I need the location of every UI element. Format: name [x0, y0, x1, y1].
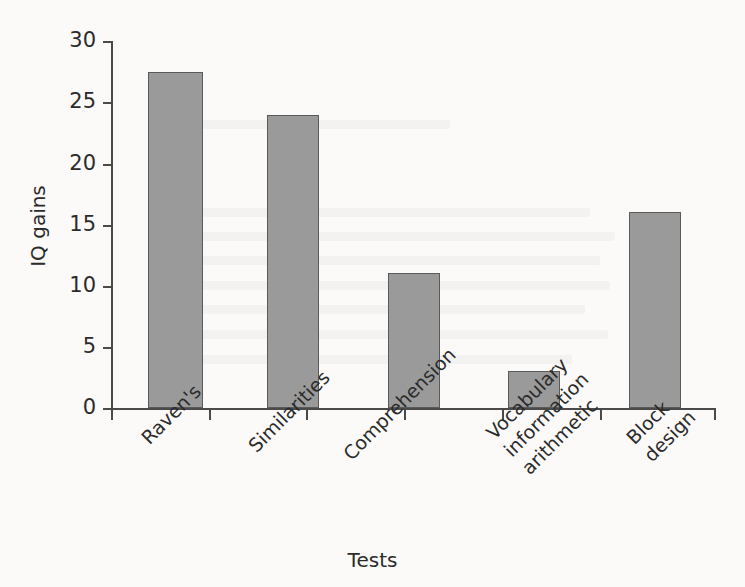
y-axis-title: IQ gains — [26, 166, 50, 286]
y-tick-label: 5 — [52, 336, 96, 357]
scan-artifact — [172, 355, 572, 364]
y-tick-label: 10 — [52, 275, 96, 296]
bar-ravens — [148, 72, 203, 408]
y-tick-label: 20 — [52, 153, 96, 174]
scan-artifact — [170, 208, 590, 217]
scan-artifact — [160, 232, 615, 241]
scan-artifact — [170, 256, 600, 265]
y-tick-label: 15 — [52, 214, 96, 235]
x-tick — [111, 410, 113, 420]
y-tick-label: 0 — [52, 397, 96, 418]
bar-similarities — [267, 115, 319, 408]
x-category-label-vocabulary-information-arithmetic: Vocabulary information arithmetic — [481, 349, 612, 480]
y-tick-label: 25 — [52, 91, 96, 112]
x-axis-line — [111, 408, 716, 410]
scan-artifact — [175, 305, 585, 314]
bar-block-design — [629, 212, 681, 408]
x-axis-title: Tests — [0, 548, 745, 572]
x-tick — [714, 410, 716, 420]
chart-figure: 30 25 20 15 10 5 0 — [0, 0, 745, 587]
x-tick — [209, 410, 211, 420]
y-tick-label: 30 — [52, 30, 96, 51]
